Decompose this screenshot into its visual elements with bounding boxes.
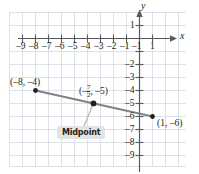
y-tick--4: –4 (125, 86, 135, 96)
x-tick--5: –5 (68, 42, 78, 52)
midpoint-annotation-box: Midpoint (57, 126, 105, 139)
y-tick--9: –9 (125, 151, 135, 161)
x-tick--2: –2 (107, 42, 117, 52)
y-tick--2: –2 (125, 60, 135, 70)
coordinate-plane-figure: x y –9 –8 –7 –6 –5 –4 –3 –2 –1 1 1 –1 –2… (0, 0, 199, 174)
y-tick--5: –5 (125, 99, 135, 109)
x-tick--3: –3 (94, 42, 104, 52)
endpoint-left-dot (33, 88, 38, 93)
x-tick--9: –9 (16, 42, 26, 52)
y-tick-1: 1 (130, 21, 135, 31)
midpoint-leader-line (84, 103, 94, 126)
y-axis-label: y (141, 1, 145, 11)
y-tick--8: –8 (125, 138, 135, 148)
point-label-midpoint: (–72, –5) (79, 84, 108, 100)
y-tick--1: –1 (132, 42, 142, 52)
x-tick--4: –4 (81, 42, 91, 52)
midpoint-label-rest: , –5) (90, 86, 107, 96)
x-tick-1: 1 (150, 42, 155, 52)
midpoint-dot (91, 101, 97, 107)
x-tick--7: –7 (42, 42, 52, 52)
y-tick--3: –3 (125, 73, 135, 83)
x-axis-label: x (180, 31, 184, 41)
endpoint-right-dot (150, 114, 155, 119)
x-tick--8: –8 (29, 42, 39, 52)
y-tick--6: –6 (125, 112, 135, 122)
point-label-right: (1, –6) (157, 119, 182, 129)
x-tick--6: –6 (55, 42, 65, 52)
point-label-left: (–8, –4) (10, 78, 40, 88)
y-tick--7: –7 (125, 125, 135, 135)
x-axis-arrow (170, 35, 177, 42)
x-tick--1: –1 (120, 42, 130, 52)
midpoint-label-open: (– (79, 86, 87, 96)
